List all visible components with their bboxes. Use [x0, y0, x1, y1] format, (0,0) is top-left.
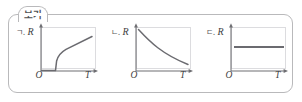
- origin-label-3: O: [226, 71, 233, 81]
- choices-panel-row: ㄱ. R O T ㄴ. R: [9, 25, 294, 85]
- plot-svg-2: [128, 21, 198, 77]
- x-axis-arrow-3: [284, 69, 288, 73]
- curve-2: [139, 30, 189, 65]
- x-axis-label-2: T: [180, 71, 185, 81]
- choice-label-3: ㄷ. R: [206, 27, 224, 37]
- choice-label-2: ㄴ. R: [111, 27, 129, 37]
- y-axis-arrow-3: [229, 23, 233, 27]
- choice-panel-2: ㄴ. R O T: [104, 25, 199, 85]
- plot-svg-1: [33, 21, 103, 77]
- x-axis-label-1: T: [85, 71, 90, 81]
- choice-panel-1: ㄱ. R O T: [9, 25, 104, 85]
- choice-marker-dot-2: .: [118, 28, 121, 37]
- choice-label-1: ㄱ. R: [16, 27, 34, 37]
- choice-marker-2: ㄴ: [111, 28, 118, 37]
- origin-label-2: O: [131, 71, 138, 81]
- choice-marker-dot-3: .: [213, 28, 216, 37]
- curve-1: [42, 37, 93, 71]
- y-axis-arrow-1: [39, 23, 43, 27]
- choice-marker-3: ㄷ: [206, 28, 213, 37]
- origin-label-1: O: [36, 71, 43, 81]
- choice-marker-1: ㄱ: [16, 28, 23, 37]
- x-axis-label-3: T: [275, 71, 280, 81]
- plot-svg-3: [223, 21, 293, 77]
- choice-marker-dot-1: .: [23, 28, 26, 37]
- x-axis-arrow-1: [94, 69, 98, 73]
- choices-tab-mask: [19, 13, 47, 16]
- x-axis-arrow-2: [189, 69, 193, 73]
- y-axis-arrow-2: [134, 23, 138, 27]
- choice-panel-3: ㄷ. R O T: [199, 25, 294, 85]
